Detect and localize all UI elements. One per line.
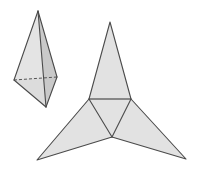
figure-canvas: Tetrahedron and its net [0,0,197,181]
geometry-figure: Tetrahedron and its net [0,0,197,181]
